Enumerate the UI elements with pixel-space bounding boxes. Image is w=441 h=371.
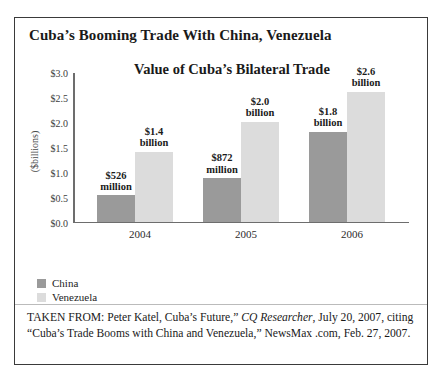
source-publication: CQ Researcher [241,311,312,324]
y-axis-tick-label: $2.0 [51,118,69,129]
legend-item-venezuela: Venezuela [37,290,97,304]
bar-venezuela-2004: $1.4billion [135,152,173,222]
y-axis-tick-label: $0.0 [51,218,69,229]
bar-china-2005: $872million [203,178,241,222]
x-axis-tick-label: 2004 [129,228,151,240]
bar-group: $1.8billion$2.6billion2006 [309,72,395,222]
source-note: TAKEN FROM: Peter Katel, Cuba’s Future,”… [27,310,419,343]
bar-venezuela-2005: $2.0billion [241,122,279,222]
bar-venezuela-2006: $2.6billion [347,92,385,222]
bar-group: $872million$2.0billion2005 [203,72,289,222]
legend-swatch-icon [37,293,46,302]
figure-title: Cuba’s Booming Trade With China, Venezue… [29,27,332,44]
bar-china-2006: $1.8billion [309,132,347,222]
bar-china-2004: $526million [97,195,135,221]
bar-value-label: $526million [100,170,132,193]
bar-value-label: $2.6billion [352,66,381,89]
y-axis-tick-label: $1.0 [51,168,69,179]
bar-value-label: $872million [206,152,238,175]
y-axis-tick-label: $0.5 [51,193,69,204]
y-axis-tick-label: $2.5 [51,93,69,104]
bar-value-label: $2.0billion [246,96,275,119]
x-axis-line [73,222,409,224]
x-axis-tick-label: 2006 [341,228,363,240]
y-axis-tick-label: $3.0 [51,68,69,79]
plot-area: $3.0$2.5$2.0$1.5$1.0$0.5$0.0 $526million… [73,73,409,223]
bar-value-label: $1.8billion [314,106,343,129]
y-axis-line [73,73,75,223]
legend-item-china: China [37,276,97,290]
chart: Value of Cuba’s Bilateral Trade ($billio… [15,54,427,284]
legend-label: Venezuela [52,291,97,303]
x-axis-tick-label: 2005 [235,228,257,240]
y-axis-tick-label: $1.5 [51,143,69,154]
figure-container: Cuba’s Booming Trade With China, Venezue… [14,17,428,365]
bar-group: $526million$1.4billion2004 [97,72,183,222]
bar-value-label: $1.4billion [140,126,169,149]
legend: ChinaVenezuela [37,276,97,304]
source-prefix: TAKEN FROM: Peter Katel, Cuba’s Future,” [27,311,241,324]
divider [15,304,427,305]
legend-swatch-icon [37,279,46,288]
y-axis-title: ($billions) [29,112,40,192]
legend-label: China [52,277,78,289]
